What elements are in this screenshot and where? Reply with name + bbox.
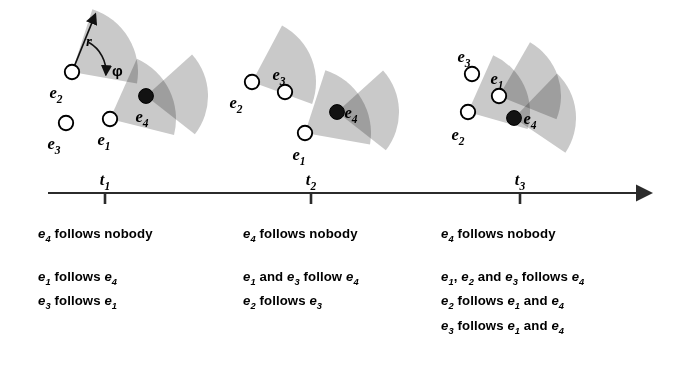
column-t2: e4 follows nobodye1 and e3 follow e4e2 f… — [243, 224, 359, 316]
relation-line: e4 follows nobody — [243, 224, 359, 249]
relation-line: e1 follows e4 — [38, 267, 153, 292]
relation-line: e3 follows e1 — [38, 291, 153, 316]
relation-group-gap — [243, 249, 359, 267]
relation-group-gap — [38, 249, 153, 267]
relation-line: e2 follows e1 and e4 — [441, 291, 584, 316]
relation-line: e2 follows e3 — [243, 291, 359, 316]
relations-text-layer: e4 follows nobodye1 follows e4e3 follows… — [0, 0, 686, 371]
relation-group-gap — [441, 249, 584, 267]
relation-line: e1 and e3 follow e4 — [243, 267, 359, 292]
column-t1: e4 follows nobodye1 follows e4e3 follows… — [38, 224, 153, 316]
relation-line: e4 follows nobody — [441, 224, 584, 249]
relation-line: e1, e2 and e3 follows e4 — [441, 267, 584, 292]
column-t3: e4 follows nobodye1, e2 and e3 follows e… — [441, 224, 584, 341]
relation-line: e4 follows nobody — [38, 224, 153, 249]
relation-line: e3 follows e1 and e4 — [441, 316, 584, 341]
